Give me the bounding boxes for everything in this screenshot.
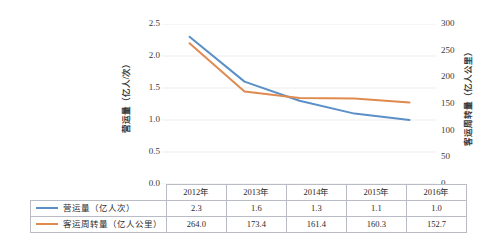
table-cell-r1-c4: 1.1 bbox=[346, 201, 406, 217]
y-right-tick-250: 250 bbox=[441, 45, 467, 55]
table-header-2014年: 2014年 bbox=[286, 185, 346, 201]
table-cell-r2-c2: 173.4 bbox=[226, 217, 286, 233]
table-cell-r1-c3: 1.3 bbox=[286, 201, 346, 217]
table-header-2015年: 2015年 bbox=[346, 185, 406, 201]
y-left-tick-2.0: 2.0 bbox=[134, 50, 160, 60]
y-right-tick-50: 50 bbox=[441, 151, 467, 161]
table-cell-r2-c5: 152.7 bbox=[406, 217, 466, 233]
y-axis-left-title: 营运量（亿人/次） bbox=[119, 46, 131, 146]
table-cell-r1-c2: 1.6 bbox=[226, 201, 286, 217]
y-left-tick-1.5: 1.5 bbox=[134, 82, 160, 92]
plot-area bbox=[162, 24, 437, 184]
table-header-row: 2012年2013年2014年2015年2016年 bbox=[31, 185, 467, 201]
series-line-1 bbox=[190, 37, 410, 120]
table-header-2016年: 2016年 bbox=[406, 185, 466, 201]
legend-cell-1: 营运量（亿人次） bbox=[31, 201, 167, 217]
line-swatch-orange-icon bbox=[36, 223, 58, 225]
table-cell-r1-c1: 2.3 bbox=[166, 201, 226, 217]
table-cell-r2-c4: 160.3 bbox=[346, 217, 406, 233]
legend-cell-2: 客运周转量（亿人公里） bbox=[31, 217, 167, 233]
table-cell-r2-c1: 264.0 bbox=[166, 217, 226, 233]
chart-figure: 营运量（亿人/次） 客运周转量（亿人公里） 0.00.51.01.52.02.5… bbox=[0, 0, 500, 240]
line-swatch-blue-icon bbox=[36, 207, 58, 209]
y-right-tick-200: 200 bbox=[441, 71, 467, 81]
chart-lines-svg bbox=[162, 24, 437, 184]
table-cell-r2-c3: 161.4 bbox=[286, 217, 346, 233]
series-line-2 bbox=[190, 43, 410, 102]
y-right-tick-100: 100 bbox=[441, 125, 467, 135]
y-right-tick-300: 300 bbox=[441, 18, 467, 28]
table-body: 营运量（亿人次）2.31.61.31.11.0客运周转量（亿人公里）264.01… bbox=[31, 201, 467, 233]
y-left-tick-0.5: 0.5 bbox=[134, 146, 160, 156]
legend-label-1: 营运量（亿人次） bbox=[63, 203, 135, 213]
y-right-tick-150: 150 bbox=[441, 98, 467, 108]
table-cell-r1-c5: 1.0 bbox=[406, 201, 466, 217]
data-table: 2012年2013年2014年2015年2016年 营运量（亿人次）2.31.6… bbox=[30, 184, 467, 233]
table-row: 客运周转量（亿人公里）264.0173.4161.4160.3152.7 bbox=[31, 217, 467, 233]
table-corner-cell bbox=[31, 185, 167, 201]
legend-label-2: 客运周转量（亿人公里） bbox=[63, 219, 162, 229]
y-left-tick-2.5: 2.5 bbox=[134, 18, 160, 28]
table-header-2012年: 2012年 bbox=[166, 185, 226, 201]
y-left-tick-1.0: 1.0 bbox=[134, 114, 160, 124]
table-row: 营运量（亿人次）2.31.61.31.11.0 bbox=[31, 201, 467, 217]
table-header-2013年: 2013年 bbox=[226, 185, 286, 201]
